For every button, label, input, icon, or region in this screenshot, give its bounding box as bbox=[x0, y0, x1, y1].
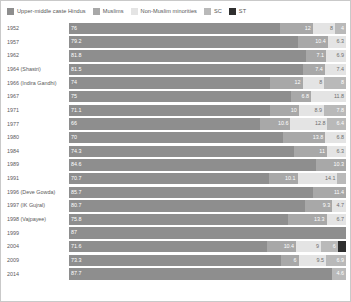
legend-item-non_muslim_minorities[interactable]: Non-Muslim minorities bbox=[131, 8, 197, 15]
segment-value-label: 6.3 bbox=[336, 146, 344, 157]
stacked-bar: 80.79.34.7 bbox=[69, 200, 346, 211]
category-label: 1998 (Vajpayee) bbox=[1, 216, 69, 223]
stacked-bar: 73.369.56.9 bbox=[69, 255, 346, 266]
category-label: 1997 (IK Gujral) bbox=[1, 202, 69, 209]
stacked-bar: 75.813.36.7 bbox=[69, 214, 346, 225]
category-label: 2004 bbox=[1, 243, 69, 250]
bar-segment: 9.5 bbox=[299, 255, 326, 266]
segment-value-label: 74 bbox=[71, 77, 77, 88]
legend-label: Upper-middle caste Hindus bbox=[17, 8, 86, 15]
segment-value-label: 71.1 bbox=[71, 105, 82, 116]
segment-value-label: 11 bbox=[319, 146, 325, 157]
stacked-bar: 741288 bbox=[69, 77, 346, 88]
segment-value-label: 6.3 bbox=[336, 36, 344, 47]
segment-value-label: 84.6 bbox=[71, 159, 82, 170]
chart-row: 195779.210.46.3 bbox=[1, 36, 346, 49]
legend-label: SC bbox=[214, 8, 222, 15]
category-label: 1967 bbox=[1, 93, 69, 100]
segment-value-label: 9.3 bbox=[323, 200, 331, 211]
bar-segment: 8 bbox=[313, 23, 335, 34]
bar-segment: 66 bbox=[69, 118, 260, 129]
chart-row: 19807013.86.8 bbox=[1, 131, 346, 144]
stacked-bar: 761284 bbox=[69, 23, 346, 34]
bar-segment: 6.8 bbox=[325, 132, 346, 143]
chart-plot-area: 1952761284195779.210.46.3196281.87.16.91… bbox=[1, 22, 350, 281]
segment-value-label: 10.4 bbox=[284, 241, 295, 252]
bar-segment: 11.4 bbox=[313, 187, 346, 198]
category-label: 1977 bbox=[1, 121, 69, 128]
category-label: 2009 bbox=[1, 257, 69, 264]
bar-segment: 11 bbox=[294, 146, 327, 157]
segment-value-label: 6.8 bbox=[302, 91, 310, 102]
stacked-bar: 6610.612.86.4 bbox=[69, 118, 346, 129]
segment-value-label: 73.3 bbox=[71, 255, 82, 266]
segment-value-label: 74.3 bbox=[71, 146, 82, 157]
legend-item-sc[interactable]: SC bbox=[204, 8, 222, 15]
bar-segment: 10.4 bbox=[267, 241, 296, 252]
category-label: 1957 bbox=[1, 39, 69, 46]
chart-row: 200471.610.4963 bbox=[1, 240, 346, 253]
legend-swatch-icon bbox=[93, 8, 100, 15]
chart-row: 196281.87.16.9 bbox=[1, 49, 346, 62]
chart-row: 200973.369.56.9 bbox=[1, 254, 346, 267]
bar-segment: 10.4 bbox=[298, 36, 328, 47]
stacked-bar: 81.87.16.9 bbox=[69, 50, 346, 61]
bar-segment: 6.8 bbox=[291, 91, 311, 102]
segment-value-label: 6.8 bbox=[336, 132, 344, 143]
legend-label: Non-Muslim minorities bbox=[141, 8, 197, 15]
category-label: 1996 (Deve Gowda) bbox=[1, 189, 69, 196]
legend-swatch-icon bbox=[229, 8, 236, 15]
stacked-bar: 71.1108.97.8 bbox=[69, 105, 346, 116]
stacked-bar: 87 bbox=[69, 227, 346, 238]
bar-segment: 3 bbox=[338, 241, 346, 252]
bar-segment: 12 bbox=[280, 23, 313, 34]
chart-row: 19776610.612.86.4 bbox=[1, 117, 346, 130]
bar-segment: 6.3 bbox=[328, 36, 346, 47]
bar-segment: 71.1 bbox=[69, 105, 270, 116]
category-label: 1964 (Shastri) bbox=[1, 66, 69, 73]
category-label: 1984 bbox=[1, 148, 69, 155]
segment-value-label: 11.4 bbox=[334, 187, 344, 198]
bar-segment: 6.9 bbox=[326, 255, 346, 266]
legend-swatch-icon bbox=[204, 8, 211, 15]
category-label: 1966 (Indira Gandhi) bbox=[1, 80, 69, 87]
segment-value-label: 71.6 bbox=[71, 241, 82, 252]
legend-item-muslims[interactable]: Muslims bbox=[93, 8, 124, 15]
segment-value-label: 12 bbox=[295, 77, 301, 88]
bar-segment: 6.4 bbox=[327, 118, 346, 129]
segment-value-label: 7.8 bbox=[336, 105, 344, 116]
segment-value-label: 81.8 bbox=[71, 50, 82, 61]
chart-row: 1996 (Deve Gowda)85.711.4 bbox=[1, 186, 346, 199]
bar-segment: 71.6 bbox=[69, 241, 267, 252]
legend-swatch-icon bbox=[131, 8, 138, 15]
category-label: 1999 bbox=[1, 230, 69, 237]
bar-segment: 80.7 bbox=[69, 200, 305, 211]
stacked-bar: 79.210.46.3 bbox=[69, 36, 346, 47]
bar-segment: 70 bbox=[69, 132, 283, 143]
segment-value-label: 4.7 bbox=[336, 200, 344, 211]
bar-segment: 79.2 bbox=[69, 36, 298, 47]
segment-value-label: 6 bbox=[333, 241, 336, 252]
segment-value-label: 10.6 bbox=[278, 118, 289, 129]
stacked-bar: 84.610.3 bbox=[69, 159, 346, 170]
legend-swatch-icon bbox=[7, 8, 14, 15]
segment-value-label: 6.9 bbox=[336, 255, 344, 266]
chart-row: 1998 (Vajpayee)75.813.36.7 bbox=[1, 213, 346, 226]
legend-item-upper_middle_caste_hindus[interactable]: Upper-middle caste Hindus bbox=[7, 8, 86, 15]
category-label: 2014 bbox=[1, 271, 69, 278]
segment-value-label: 10.4 bbox=[315, 36, 326, 47]
segment-value-label: 70 bbox=[71, 132, 77, 143]
segment-value-label: 8 bbox=[330, 23, 333, 34]
bar-segment: 7.4 bbox=[325, 64, 346, 75]
bar-segment: 9 bbox=[296, 241, 321, 252]
legend-item-st[interactable]: ST bbox=[229, 8, 246, 15]
bar-segment: 6 bbox=[321, 241, 338, 252]
bar-segment: 8 bbox=[324, 77, 346, 88]
bar-segment: 81.8 bbox=[69, 50, 306, 61]
segment-value-label: 14.1 bbox=[325, 173, 336, 184]
stacked-bar: 85.711.4 bbox=[69, 187, 346, 198]
segment-value-label: 10.3 bbox=[333, 159, 344, 170]
stacked-bar: 81.57.47.4 bbox=[69, 64, 346, 75]
segment-value-label: 75 bbox=[71, 91, 77, 102]
chart-legend: Upper-middle caste HindusMuslimsNon-Musl… bbox=[1, 1, 350, 17]
